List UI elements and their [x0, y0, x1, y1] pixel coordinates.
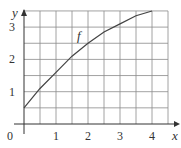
y-tick-1: 1 [9, 85, 15, 99]
function-graph: 01234 123 x y f [0, 0, 181, 148]
curve-label-f: f [77, 28, 83, 43]
y-axis-label: y [10, 5, 18, 20]
y-axis-arrow-icon [21, 9, 27, 16]
grid [24, 11, 168, 124]
x-tick-0: 0 [7, 129, 13, 143]
y-tick-2: 2 [9, 52, 15, 66]
x-tick-4: 4 [149, 129, 155, 143]
x-axis-label: x [171, 128, 178, 143]
x-tick-2: 2 [85, 129, 91, 143]
y-tick-labels: 123 [9, 20, 15, 99]
x-tick-3: 3 [117, 129, 123, 143]
y-tick-3: 3 [9, 20, 15, 34]
x-tick-labels: 01234 [7, 129, 155, 143]
x-axis-arrow-icon [174, 121, 180, 127]
x-tick-1: 1 [53, 129, 59, 143]
